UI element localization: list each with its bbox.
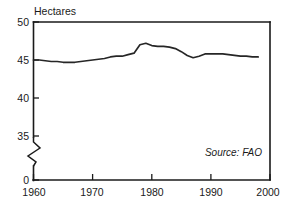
x-tick-marks xyxy=(34,174,271,180)
x-tick-label-2000: 2000 xyxy=(256,186,280,198)
y-tick-label-50: 50 xyxy=(17,16,29,28)
y-axis-title: Hectares xyxy=(34,5,76,17)
x-tick-label-1960: 1960 xyxy=(22,186,46,198)
x-tick-label-1970: 1970 xyxy=(80,186,104,198)
y-tick-label-40: 40 xyxy=(17,92,29,104)
line-chart: Hectares 50 45 40 35 0 xyxy=(0,0,282,202)
x-tick-label-1980: 1980 xyxy=(140,186,164,198)
chart-container: Hectares 50 45 40 35 0 xyxy=(0,0,282,202)
data-series-hectares xyxy=(34,43,259,62)
y-axis-break-icon xyxy=(28,137,40,166)
y-tick-label-0: 0 xyxy=(23,174,29,186)
y-tick-marks xyxy=(34,22,40,180)
y-tick-label-45: 45 xyxy=(17,54,29,66)
source-annotation: Source: FAO xyxy=(205,147,262,158)
y-tick-label-35: 35 xyxy=(17,130,29,142)
x-tick-label-1990: 1990 xyxy=(199,186,223,198)
